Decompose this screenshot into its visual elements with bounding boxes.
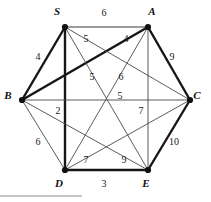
edge-weight-d-e: 3 [102,178,107,189]
edge-weight-s-c: 5 [90,71,95,82]
graph-node-s[interactable] [62,24,68,30]
edge-weight-a-d: 6 [119,71,124,82]
edge-weight-b-a: 4 [124,33,129,44]
edge-weight-b-c: 5 [118,90,123,101]
edge-weight-a-e: 7 [139,105,144,116]
edge-weight-b-s: 4 [36,51,41,62]
graph-node-b[interactable] [19,97,25,103]
graph-node-d[interactable] [62,167,68,173]
edges-layer [22,27,190,170]
graph-node-a[interactable] [145,24,151,30]
edge-weight-b-d: 6 [36,136,41,147]
node-label-s: S [54,5,60,17]
edge-weight-c-e: 10 [169,136,179,147]
node-label-b: B [3,89,11,101]
graph-diagram: 6491036275455679 SABCDE [0,0,211,202]
edge-weight-s-e: 5 [84,33,89,44]
graph-node-e[interactable] [145,167,151,173]
edge-c-e [148,100,190,170]
edge-a-c [148,27,190,100]
vertex-labels-layer: SABCDE [3,5,201,189]
node-label-e: E [141,177,149,189]
node-label-c: C [193,89,201,101]
node-label-d: D [54,177,63,189]
edge-b-s [22,27,65,100]
graph-node-c[interactable] [187,97,193,103]
node-label-a: A [147,5,155,17]
edge-weight-d-c: 7 [84,154,89,165]
edge-weight-b-e: 9 [122,154,127,165]
edge-weight-s-d: 2 [56,105,61,116]
edge-weight-a-c: 9 [170,51,175,62]
graph-canvas: 6491036275455679 SABCDE [0,0,211,202]
edge-weight-s-a: 6 [102,7,107,18]
